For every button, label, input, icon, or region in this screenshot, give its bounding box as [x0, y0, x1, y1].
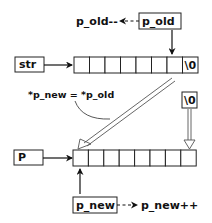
- terminator-label: \0: [184, 94, 196, 107]
- terminator-hollow-arrow: [184, 109, 195, 149]
- array-cell: [152, 57, 168, 73]
- array-cell: [90, 57, 106, 73]
- bottom-array: [73, 150, 196, 166]
- array-cell: [167, 57, 183, 73]
- array-cell: [136, 57, 152, 73]
- array-cell: [121, 57, 137, 73]
- string-copy-diagram: p_old-- p_old str \0 *p_new = *p_old \0 …: [0, 0, 212, 223]
- assignment-curve: [75, 101, 110, 119]
- p-old-label: p_old: [142, 15, 175, 28]
- p-old-decrement-label: p_old--: [76, 15, 118, 28]
- p-new-label: p_new: [76, 199, 115, 212]
- array-cell: [165, 150, 180, 166]
- p-label: P: [18, 151, 26, 164]
- array-cell: [119, 150, 134, 166]
- array-cell: [104, 150, 119, 166]
- decrement-arrowhead-icon: [119, 18, 126, 25]
- array-cell-value: \0: [185, 59, 197, 72]
- array-cell: [181, 150, 196, 166]
- array-cell: [105, 57, 121, 73]
- array-cell: [74, 57, 90, 73]
- top-array: \0: [74, 57, 198, 73]
- array-cell: [88, 150, 103, 166]
- p-new-increment-label: p_new++: [141, 199, 198, 212]
- array-cell: [150, 150, 165, 166]
- str-label: str: [19, 58, 37, 71]
- assignment-label: *p_new = *p_old: [28, 89, 114, 100]
- array-cell: [135, 150, 150, 166]
- increment-arrowhead-icon: [131, 202, 138, 209]
- array-cell: [73, 150, 88, 166]
